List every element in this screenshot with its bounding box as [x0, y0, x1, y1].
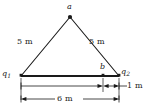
one-meter-arrow-right — [114, 84, 119, 88]
triangle-side-left — [21, 17, 70, 76]
six-meter-arrow-right — [114, 97, 120, 101]
label-charge-q2-subscript: 2 — [126, 70, 130, 77]
upper-dim-arrow-right — [98, 84, 104, 88]
label-side-left: 5 m — [17, 38, 33, 46]
label-dim-six-meters: 6 m — [57, 95, 73, 103]
label-charge-q2: q2 — [121, 68, 130, 77]
point-marker-b — [102, 74, 105, 77]
physics-figure: a b q1 q2 5 m 5 m 6 m 1 m — [0, 0, 157, 111]
figure-canvas — [0, 0, 157, 111]
label-point-a: a — [67, 3, 72, 11]
label-dim-one-meter: 1 m — [127, 82, 143, 90]
triangle-side-right — [70, 17, 119, 76]
point-marker-q1 — [20, 74, 23, 77]
label-side-right: 5 m — [89, 38, 105, 46]
label-charge-q1-subscript: 1 — [7, 72, 11, 79]
point-marker-q2 — [118, 74, 121, 77]
six-meter-arrow-left — [21, 97, 27, 101]
one-meter-arrow-left — [103, 84, 108, 88]
label-charge-q1: q1 — [2, 70, 11, 79]
label-point-b: b — [100, 63, 105, 71]
point-marker-a — [68, 15, 72, 19]
